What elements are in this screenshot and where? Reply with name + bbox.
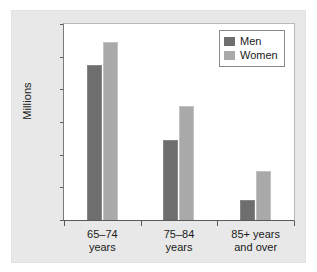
- legend-swatch-women-icon: [224, 51, 235, 60]
- chart-legend: Men Women: [219, 30, 285, 67]
- x-axis-category-label: 65–74 years: [64, 228, 141, 253]
- x-axis-separator: [141, 221, 142, 226]
- bar-women: [179, 106, 194, 220]
- bar-women: [103, 42, 118, 220]
- legend-label-women: Women: [240, 50, 278, 61]
- legend-swatch-men-icon: [224, 37, 235, 46]
- bar-men: [87, 65, 102, 220]
- bar-group: [141, 24, 218, 220]
- bar-group: [64, 24, 141, 220]
- legend-label-men: Men: [240, 36, 261, 47]
- y-axis-ticks: 024681012: [0, 0, 63, 272]
- legend-item-women: Women: [224, 48, 278, 62]
- x-axis-separator: [294, 221, 295, 226]
- x-axis-separator: [64, 221, 65, 226]
- bar-men: [163, 140, 178, 220]
- bar-chart-figure: Millions 024681012 65–74 years75–84 year…: [0, 0, 317, 272]
- x-axis-category-label: 75–84 years: [141, 228, 218, 253]
- x-axis-separator: [217, 221, 218, 226]
- bar-men: [240, 200, 255, 220]
- x-axis-category-label: 85+ years and over: [217, 228, 294, 253]
- legend-item-men: Men: [224, 34, 278, 48]
- bar-women: [256, 171, 271, 220]
